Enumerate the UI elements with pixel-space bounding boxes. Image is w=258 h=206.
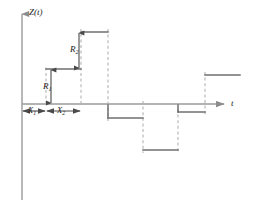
x-axis-label: t: [231, 99, 234, 108]
interval-label-x1: X1: [28, 106, 36, 117]
amplitude-label-r2: R2: [70, 45, 79, 55]
axis-group: [22, 14, 224, 200]
figure-canvas: Z(t) t R1 R2 X1 X2: [0, 0, 258, 206]
amplitude-label-r1: R1: [43, 82, 52, 92]
y-axis-label: Z(t): [29, 8, 43, 17]
interval-label-x2: X2: [57, 106, 65, 117]
amplitude-label-r2-sub: 2: [76, 49, 79, 55]
amplitude-label-r1-sub: 1: [49, 86, 52, 92]
interval-label-x2-sub: 2: [62, 110, 65, 116]
waveform-diagram: [0, 0, 258, 206]
interval-label-x1-sub: 1: [33, 110, 36, 116]
